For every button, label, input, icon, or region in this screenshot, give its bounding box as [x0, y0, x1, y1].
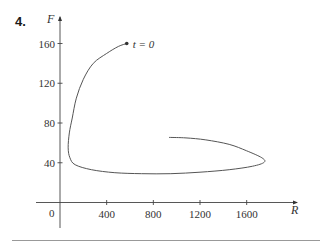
start-point-label: t = 0 — [133, 38, 155, 50]
y-tick-label: 160 — [39, 38, 56, 50]
figure: 4. 40080012001600 4080120160 0 R F t = 0 — [0, 0, 320, 242]
y-tick-label: 40 — [44, 157, 56, 169]
problem-number: 4. — [15, 14, 26, 29]
x-tick-label: 800 — [145, 208, 162, 220]
y-tick-label: 80 — [44, 117, 56, 129]
start-point-marker — [125, 42, 129, 46]
parametric-curve — [68, 44, 265, 174]
y-ticks: 4080120160 — [39, 38, 63, 169]
x-tick-label: 400 — [98, 208, 115, 220]
phase-plot: 40080012001600 4080120160 0 R F t = 0 — [0, 0, 320, 242]
x-tick-label: 1600 — [236, 208, 259, 220]
origin-label: 0 — [49, 207, 55, 219]
x-tick-label: 1200 — [189, 208, 212, 220]
y-axis-label: F — [46, 12, 55, 26]
y-tick-label: 120 — [39, 77, 56, 89]
x-axis-label: R — [290, 203, 299, 217]
